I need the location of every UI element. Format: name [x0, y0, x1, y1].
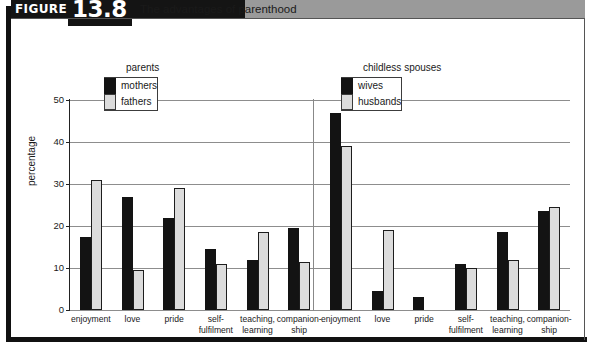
- y-tick-label: 30: [34, 179, 64, 189]
- gridline: [70, 184, 570, 185]
- bar: [216, 264, 227, 310]
- bar: [466, 268, 477, 310]
- y-tick-label: 0: [34, 305, 64, 315]
- y-tick-label: 40: [34, 137, 64, 147]
- legend-swatch-fathers: [104, 94, 116, 110]
- frame-right-border: [584, 18, 585, 340]
- bar: [330, 113, 341, 310]
- gridline: [70, 268, 570, 269]
- legend-label-husbands: husbands: [353, 96, 401, 108]
- bar: [91, 180, 102, 310]
- y-tick-mark: [66, 184, 70, 185]
- y-tick-label: 10: [34, 263, 64, 273]
- bar: [133, 270, 144, 310]
- legend-box: mothers fathers: [104, 77, 158, 111]
- legend-label-mothers: mothers: [116, 80, 157, 92]
- bar: [413, 297, 424, 310]
- legend-box: wives husbands: [341, 77, 402, 111]
- y-tick-label: 20: [34, 221, 64, 231]
- figure-caption: The advantages of parenthood: [140, 2, 297, 16]
- gridline: [70, 310, 570, 311]
- bar: [205, 249, 216, 310]
- legend-item: wives: [342, 78, 401, 94]
- legend-swatch-mothers: [104, 78, 116, 94]
- plot-area: 01020304050: [70, 100, 570, 310]
- y-tick-mark: [66, 310, 70, 311]
- legend-item: husbands: [342, 94, 401, 110]
- legend-swatch-husbands: [341, 94, 353, 110]
- frame-bottom-border: [6, 337, 587, 342]
- legend-label-wives: wives: [353, 80, 383, 92]
- bar: [549, 207, 560, 310]
- legend-swatch-wives: [341, 78, 353, 94]
- bar: [163, 218, 174, 310]
- frame-left-border: [6, 6, 11, 342]
- bar: [372, 291, 383, 310]
- y-tick-label: 50: [34, 95, 64, 105]
- y-tick-mark: [66, 268, 70, 269]
- bar: [288, 228, 299, 310]
- legend-label-fathers: fathers: [116, 96, 152, 108]
- panel-divider: [313, 99, 314, 311]
- x-tick-label: companion- ship: [524, 314, 574, 335]
- bar: [455, 264, 466, 310]
- bar: [247, 260, 258, 310]
- bar: [122, 197, 133, 310]
- y-tick-mark: [66, 142, 70, 143]
- gridline: [70, 226, 570, 227]
- bar: [383, 230, 394, 310]
- y-tick-mark: [66, 100, 70, 101]
- y-tick-mark: [66, 226, 70, 227]
- bar: [538, 211, 549, 310]
- bar: [497, 232, 508, 310]
- legend-item: mothers: [105, 78, 157, 94]
- legend-title: parents: [126, 62, 159, 74]
- frame-top-line: [11, 18, 585, 19]
- figure-container: FIGURE 13.8 The advantages of parenthood…: [0, 0, 593, 353]
- bar: [299, 262, 310, 310]
- figure-label: FIGURE: [15, 3, 67, 16]
- bar: [174, 188, 185, 310]
- bar: [341, 146, 352, 310]
- bar: [508, 260, 519, 310]
- legend-item: fathers: [105, 94, 157, 110]
- bar: [258, 232, 269, 310]
- legend-title: childless spouses: [363, 62, 441, 74]
- bar: [80, 237, 91, 311]
- gridline: [70, 142, 570, 143]
